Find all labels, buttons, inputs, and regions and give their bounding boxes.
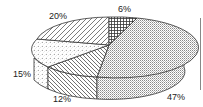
label-6: 6% <box>118 5 131 14</box>
pie-chart <box>0 0 203 107</box>
pie-top-face <box>32 17 199 78</box>
legend-divider-line <box>200 18 201 90</box>
label-20: 20% <box>49 12 67 21</box>
label-12: 12% <box>53 95 71 104</box>
label-15: 15% <box>13 70 31 79</box>
label-47: 47% <box>167 93 185 102</box>
